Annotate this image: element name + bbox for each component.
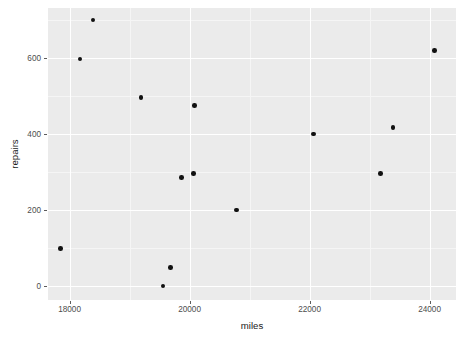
data-point	[91, 18, 96, 23]
y-axis-tick-mark	[44, 134, 47, 135]
y-axis-tick-label: 600	[0, 53, 41, 62]
y-axis-tick-label: 200	[0, 205, 41, 214]
plot-panel	[48, 8, 456, 300]
gridline-major-vertical	[430, 8, 431, 300]
gridline-major-vertical	[190, 8, 191, 300]
gridline-minor-horizontal	[48, 172, 456, 173]
data-point	[192, 103, 197, 108]
gridline-major-horizontal	[48, 58, 456, 59]
y-axis-tick-mark	[44, 286, 47, 287]
data-point	[139, 95, 144, 100]
x-axis-tick-mark	[190, 301, 191, 304]
x-axis-tick-mark	[430, 301, 431, 304]
data-point	[78, 57, 83, 62]
x-axis-title: miles	[48, 320, 456, 331]
gridline-major-horizontal	[48, 134, 456, 135]
x-axis-tick-mark	[70, 301, 71, 304]
data-point	[234, 208, 239, 213]
gridline-minor-horizontal	[48, 248, 456, 249]
scatter-plot-figure: miles repairs 18000200002200024000020040…	[0, 0, 471, 348]
y-axis-title: repairs	[9, 139, 20, 168]
gridline-major-vertical	[310, 8, 311, 300]
x-axis-tick-mark	[310, 301, 311, 304]
gridline-minor-vertical	[370, 8, 371, 300]
gridline-major-vertical	[70, 8, 71, 300]
y-axis-tick-label: 0	[0, 281, 41, 290]
data-point	[378, 171, 383, 176]
data-point	[311, 132, 316, 137]
x-axis-tick-label: 24000	[418, 305, 441, 314]
gridline-minor-horizontal	[48, 96, 456, 97]
y-axis-tick-mark	[44, 210, 47, 211]
data-point	[191, 171, 196, 176]
y-axis-tick-mark	[44, 58, 47, 59]
x-axis-tick-label: 18000	[58, 305, 81, 314]
data-point	[161, 284, 166, 289]
x-axis-tick-label: 22000	[298, 305, 321, 314]
data-point	[432, 48, 437, 53]
gridline-minor-vertical	[250, 8, 251, 300]
data-point	[391, 125, 396, 130]
y-axis-tick-label: 400	[0, 129, 41, 138]
data-point	[179, 175, 184, 180]
gridline-minor-vertical	[130, 8, 131, 300]
gridline-minor-horizontal	[48, 20, 456, 21]
data-point	[168, 265, 173, 270]
x-axis-tick-label: 20000	[178, 305, 201, 314]
gridline-major-horizontal	[48, 286, 456, 287]
data-point	[58, 246, 63, 251]
gridline-major-horizontal	[48, 210, 456, 211]
